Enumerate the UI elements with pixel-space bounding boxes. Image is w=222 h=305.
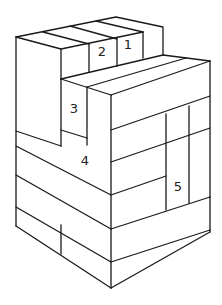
label-piece-5: 5 (174, 179, 182, 194)
label-piece-3: 3 (70, 101, 78, 116)
label-piece-4: 4 (81, 153, 89, 168)
label-piece-1: 1 (124, 37, 132, 52)
outline (16, 17, 210, 288)
label-piece-2: 2 (98, 44, 106, 59)
block-stack-diagram: 1 2 3 4 5 (0, 0, 222, 305)
